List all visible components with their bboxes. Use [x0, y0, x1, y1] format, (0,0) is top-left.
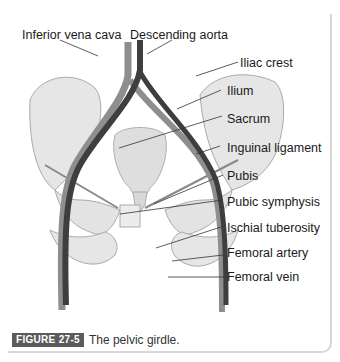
label-sacrum: Sacrum: [227, 112, 270, 126]
pubic-symphysis-bone: [120, 205, 140, 227]
figure-caption: FIGURE 27-5 The pelvic girdle.: [12, 333, 180, 347]
label-inguinal-ligament: Inguinal ligament: [227, 141, 322, 155]
label-femoral-artery: Femoral artery: [227, 246, 308, 260]
sacrum-bone: [114, 128, 167, 198]
label-ischial-tuberosity: Ischial tuberosity: [227, 221, 320, 235]
pelvic-girdle-illustration: [0, 0, 340, 362]
label-iliac-crest: Iliac crest: [240, 56, 293, 70]
label-pubic-symphysis: Pubic symphysis: [227, 195, 320, 209]
label-descending-aorta: Descending aorta: [130, 28, 228, 42]
label-ilium: Ilium: [227, 84, 253, 98]
label-femoral-vein: Femoral vein: [227, 270, 299, 284]
label-pubis: Pubis: [227, 169, 258, 183]
left-ilium-bone: [30, 77, 101, 190]
label-inferior-vena-cava: Inferior vena cava: [22, 28, 121, 42]
caption-text: The pelvic girdle.: [89, 333, 180, 347]
figure-number-badge: FIGURE 27-5: [12, 333, 84, 347]
